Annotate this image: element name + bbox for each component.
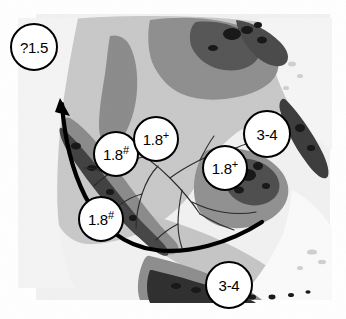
map-figure: ?1.5 1.8# 1.8+ 1.8+ 3-4 1.8# 3-4 bbox=[0, 0, 346, 319]
age-label-superscript: + bbox=[163, 130, 169, 141]
age-label-34-south[interactable]: 3-4 bbox=[205, 261, 253, 309]
age-label-18-plus-central[interactable]: 1.8+ bbox=[202, 145, 248, 191]
age-label-superscript: # bbox=[123, 145, 129, 156]
age-label-value: 1.8 bbox=[88, 212, 108, 227]
age-label-value: 1.8 bbox=[143, 132, 163, 147]
age-label-value: 3-4 bbox=[257, 127, 278, 142]
age-label-value: 1.8 bbox=[103, 147, 123, 162]
age-label-34-east[interactable]: 3-4 bbox=[243, 110, 291, 158]
age-label-value: 1.8 bbox=[212, 161, 232, 176]
age-label-18-hash-south[interactable]: 1.8# bbox=[78, 196, 124, 242]
age-label-value: ?1.5 bbox=[20, 40, 48, 55]
age-label-18-plus-north[interactable]: 1.8+ bbox=[133, 116, 179, 162]
age-label-value: 3-4 bbox=[219, 278, 240, 293]
age-label-q15[interactable]: ?1.5 bbox=[10, 23, 58, 71]
age-label-superscript: + bbox=[232, 159, 238, 170]
age-label-superscript: # bbox=[108, 210, 114, 221]
